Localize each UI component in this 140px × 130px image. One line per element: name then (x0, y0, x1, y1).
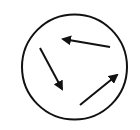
arrow-top-left-icon (63, 39, 110, 47)
boundary-circle (22, 15, 127, 120)
arrows-group (40, 39, 117, 105)
diagram-canvas (0, 0, 140, 130)
arrow-down-icon (40, 48, 62, 89)
arrow-up-right-icon (80, 75, 117, 105)
circle-arrows-diagram (0, 0, 140, 130)
